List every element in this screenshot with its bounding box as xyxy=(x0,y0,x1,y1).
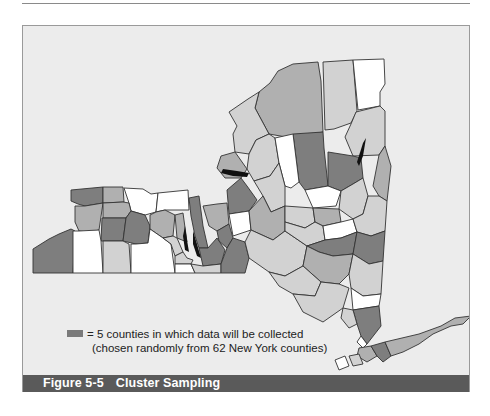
figure-caption-band: Figure 5-5Cluster Sampling xyxy=(23,375,469,392)
legend-swatch xyxy=(67,330,83,337)
county-chautauqua xyxy=(33,229,75,273)
county-livingston xyxy=(123,211,150,244)
county-westchester xyxy=(353,306,381,344)
county-chenango xyxy=(229,211,251,236)
legend-text-line-2: (chosen randomly from 62 New York counti… xyxy=(67,341,327,355)
county-tioga xyxy=(191,264,221,273)
figure-caption: Figure 5-5Cluster Sampling xyxy=(43,376,220,390)
county-niagara xyxy=(71,187,103,206)
county-richmond xyxy=(335,356,349,370)
county-erie xyxy=(75,203,103,232)
figure-box: = 5 counties in which data will be colle… xyxy=(22,25,470,392)
county-allegany xyxy=(103,241,131,273)
county-wyoming xyxy=(101,218,126,241)
county-suffolk xyxy=(385,316,469,356)
county-wayne xyxy=(156,190,189,212)
county-cayuga xyxy=(189,196,208,248)
county-orleans xyxy=(103,187,124,203)
county-st-lawrence xyxy=(255,62,323,137)
figure-number: Figure 5-5 xyxy=(43,376,104,390)
legend-text-line-1: = 5 counties in which data will be colle… xyxy=(87,328,303,340)
top-rule xyxy=(22,3,470,4)
new-york-county-map xyxy=(23,26,469,374)
county-genesee xyxy=(103,202,131,218)
legend-line-1: = 5 counties in which data will be colle… xyxy=(67,327,327,341)
county-clinton xyxy=(353,59,385,110)
legend: = 5 counties in which data will be colle… xyxy=(67,327,327,355)
county-franklin xyxy=(323,60,357,130)
county-fulton xyxy=(305,186,341,208)
county-cattaraugus xyxy=(73,230,103,273)
figure-title: Cluster Sampling xyxy=(116,376,220,390)
